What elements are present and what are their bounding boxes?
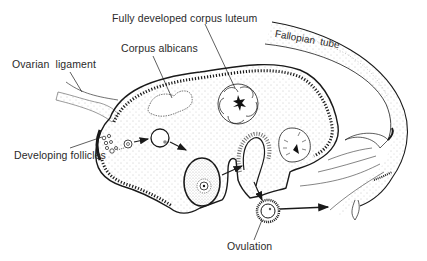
label-developing-follicles: Developing follicles — [14, 149, 106, 161]
ovulated-oocyte — [257, 200, 328, 222]
ovarian-ligament — [56, 82, 118, 122]
corpus-luteum — [218, 84, 258, 124]
label-corpus-luteum: Fully developed corpus luteum — [112, 12, 257, 24]
ovary-diagram: Fully developed corpus luteum Corpus alb… — [0, 0, 427, 261]
diagram-canvas — [0, 0, 427, 261]
label-corpus-albicans: Corpus albicans — [121, 42, 198, 54]
mature-follicle — [184, 158, 242, 206]
label-ovarian-ligament: Ovarian ligament — [12, 58, 96, 70]
label-ovulation: Ovulation — [227, 240, 272, 252]
